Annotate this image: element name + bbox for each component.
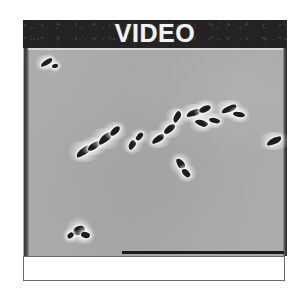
panel-title-label: VIDEO: [23, 20, 287, 48]
scale-bar: [122, 251, 284, 254]
micrograph-right-edge-band: [283, 48, 287, 256]
micrograph-illumination-shading: [23, 48, 287, 256]
video-panel: VIDEO: [23, 20, 287, 256]
phase-contrast-micrograph: [23, 48, 287, 256]
video-figure: VIDEO: [0, 0, 303, 290]
panel-header-bar: VIDEO: [23, 20, 287, 48]
micrograph-top-edge-band: [28, 48, 283, 50]
caption-text: [24, 257, 284, 265]
micrograph-left-edge-band: [24, 48, 29, 256]
caption-box: [23, 256, 285, 281]
